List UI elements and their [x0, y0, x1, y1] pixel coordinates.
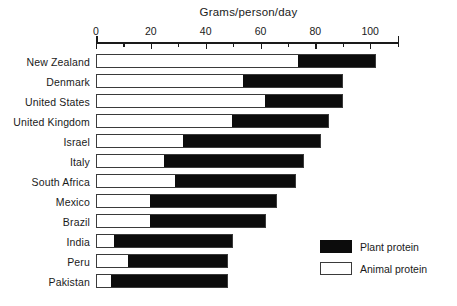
bar-segment-plant — [128, 255, 227, 267]
category-label: Peru — [67, 256, 90, 268]
x-tick-major — [261, 43, 262, 49]
category-label: India — [66, 236, 90, 248]
bar-row: South Africa — [96, 172, 398, 192]
x-tick-major — [206, 43, 207, 49]
x-tick-major — [315, 43, 316, 49]
stacked-bar — [96, 94, 343, 108]
bar-row: United States — [96, 92, 398, 112]
bar-segment-plant — [175, 175, 296, 187]
stacked-bar — [96, 114, 329, 128]
legend-swatch-animal-icon — [320, 262, 352, 275]
category-label: South Africa — [32, 176, 90, 188]
stacked-bar — [96, 174, 296, 188]
stacked-bar — [96, 234, 233, 248]
stacked-bar — [96, 214, 266, 228]
legend-label-animal: Animal protein — [360, 263, 427, 275]
x-axis-line — [96, 42, 398, 44]
legend-item-animal-protein: Animal protein — [320, 260, 450, 277]
bar-segment-plant — [114, 235, 232, 247]
bar-row: Mexico — [96, 192, 398, 212]
x-tick-label: 20 — [145, 25, 157, 37]
category-label: Mexico — [56, 196, 90, 208]
x-tick-major — [151, 43, 152, 49]
x-tick-label: 100 — [361, 25, 379, 37]
bar-segment-plant — [243, 75, 342, 87]
legend-item-plant-protein: Plant protein — [320, 238, 450, 255]
category-label: Brazil — [63, 216, 90, 228]
bar-row: Denmark — [96, 72, 398, 92]
bar-row: Italy — [96, 152, 398, 172]
bar-row: New Zealand — [96, 52, 398, 72]
x-tick-major — [370, 43, 371, 49]
bar-segment-plant — [150, 215, 265, 227]
stacked-bar — [96, 134, 321, 148]
stacked-bar — [96, 274, 228, 288]
bar-segment-plant — [111, 275, 226, 287]
x-tick-label: 60 — [255, 25, 267, 37]
legend-label-plant: Plant protein — [360, 241, 419, 253]
bar-segment-plant — [298, 55, 375, 67]
legend-swatch-plant-icon — [320, 240, 352, 253]
stacked-bar — [96, 74, 343, 88]
stacked-bar — [96, 194, 277, 208]
bar-segment-plant — [183, 135, 320, 147]
x-tick-minor — [123, 43, 124, 47]
bar-row: Brazil — [96, 212, 398, 232]
x-tick-label: 40 — [200, 25, 212, 37]
category-label: United States — [25, 96, 90, 108]
x-tick-minor — [178, 43, 179, 47]
x-tick-label: 80 — [310, 25, 322, 37]
stacked-bar — [96, 254, 228, 268]
bar-row: United Kingdom — [96, 112, 398, 132]
x-tick-minor — [398, 43, 399, 47]
category-label: Pakistan — [49, 276, 90, 288]
x-tick-minor — [233, 43, 234, 47]
bar-segment-plant — [150, 195, 276, 207]
x-tick-minor — [288, 43, 289, 47]
stacked-bar — [96, 154, 304, 168]
category-label: Italy — [70, 156, 90, 168]
bar-segment-plant — [164, 155, 304, 167]
category-label: New Zealand — [26, 56, 90, 68]
category-label: Denmark — [46, 76, 90, 88]
x-axis-end-cap — [96, 36, 98, 43]
bar-row: Israel — [96, 132, 398, 152]
protein-consumption-chart: Grams/person/day 020406080100 New Zealan… — [0, 0, 457, 306]
x-axis-end-cap — [398, 36, 400, 43]
x-tick-minor — [343, 43, 344, 47]
stacked-bar — [96, 54, 376, 68]
bar-segment-plant — [265, 95, 342, 107]
x-tick-major — [96, 43, 97, 49]
chart-legend: Plant protein Animal protein — [320, 238, 450, 282]
chart-title: Grams/person/day — [0, 6, 457, 18]
category-label: United Kingdom — [13, 116, 90, 128]
bar-segment-plant — [232, 115, 328, 127]
category-label: Israel — [63, 136, 90, 148]
